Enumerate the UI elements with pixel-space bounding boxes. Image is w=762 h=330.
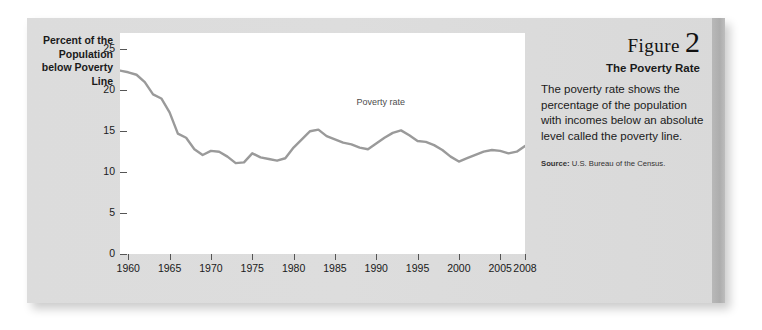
source-text: U.S. Bureau of the Census. <box>572 159 666 168</box>
card-right-band <box>712 18 725 303</box>
x-tick-label: 2000 <box>447 262 470 274</box>
y-tick-label: 0 <box>37 247 115 259</box>
x-tick-label: 1995 <box>406 262 429 274</box>
y-tick-label: 10 <box>37 165 115 177</box>
y-tick-label: 25 <box>37 42 115 54</box>
poverty-rate-line-chart <box>120 33 525 254</box>
x-tick-label: 1980 <box>282 262 305 274</box>
x-tick-label: 1985 <box>323 262 346 274</box>
y-axis-labels: 0510152025 <box>33 18 115 303</box>
y-tick-mark <box>120 172 127 173</box>
plot-area <box>120 33 525 254</box>
x-tick-label: 1965 <box>158 262 181 274</box>
figure-source: Source: U.S. Bureau of the Census. <box>541 158 709 169</box>
x-tick-mark <box>252 254 253 260</box>
x-tick-mark <box>211 254 212 260</box>
y-tick-mark <box>120 131 127 132</box>
y-tick-mark <box>120 213 127 214</box>
y-tick-mark <box>120 254 127 255</box>
x-tick-label: 1970 <box>199 262 222 274</box>
y-tick-mark <box>120 90 127 91</box>
figure-subtitle: The Poverty Rate <box>606 62 700 74</box>
x-tick-mark <box>335 254 336 260</box>
figure-number: 2 <box>685 25 700 58</box>
x-tick-label: 1975 <box>241 262 264 274</box>
y-tick-label: 20 <box>37 83 115 95</box>
chart-block: Percent of the Population below Poverty … <box>27 18 535 303</box>
x-tick-mark <box>294 254 295 260</box>
x-tick-label: 2005 <box>489 262 512 274</box>
x-tick-mark <box>376 254 377 260</box>
figure-text-column: Figure2 The Poverty Rate The poverty rat… <box>535 18 712 303</box>
figure-heading: Figure2 <box>627 25 700 59</box>
figure-label: Figure <box>627 35 680 56</box>
series-annotation-poverty-rate: Poverty rate <box>356 97 405 107</box>
x-tick-mark <box>128 254 129 260</box>
y-tick-label: 5 <box>37 206 115 218</box>
poverty-rate-line <box>120 71 525 163</box>
y-tick-label: 15 <box>37 124 115 136</box>
x-tick-label: 2008 <box>513 262 536 274</box>
y-tick-mark <box>120 49 127 50</box>
x-tick-mark <box>170 254 171 260</box>
figure-description: The poverty rate shows the percentage of… <box>541 82 706 144</box>
x-tick-mark <box>500 254 501 260</box>
x-tick-label: 1990 <box>365 262 388 274</box>
source-label: Source: <box>541 159 570 168</box>
x-tick-mark <box>525 254 526 260</box>
x-tick-mark <box>418 254 419 260</box>
figure-card: Percent of the Population below Poverty … <box>27 18 725 303</box>
x-tick-mark <box>459 254 460 260</box>
x-tick-label: 1960 <box>117 262 140 274</box>
